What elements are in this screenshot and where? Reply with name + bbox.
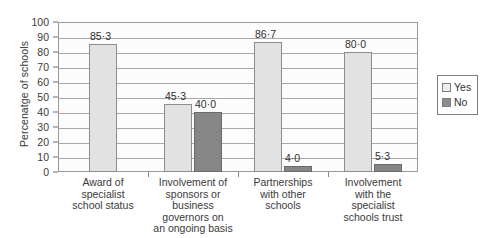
- x-axis-label-line: Involvement of: [142, 177, 244, 189]
- x-axis-label-line: schools: [232, 200, 334, 212]
- y-axis-tick-90: 90: [37, 32, 49, 43]
- bars-layer: 85·345·340·086·74·080·05·3: [58, 22, 418, 172]
- bar-yes-1[interactable]: [89, 44, 117, 172]
- y-axis-tick-40: 40: [37, 107, 49, 118]
- y-axis-tick-50: 50: [37, 92, 49, 103]
- bar-value-label: 80·0: [345, 39, 366, 50]
- x-axis-label-line: Partnerships: [232, 177, 334, 189]
- x-axis-label-line: schools trust: [322, 212, 424, 224]
- x-axis-label-line: an ongoing basis: [142, 223, 244, 235]
- y-axis-tick-100: 100: [31, 17, 49, 28]
- y-axis-tick-30: 30: [37, 122, 49, 133]
- bar-value-label: 40·0: [195, 99, 216, 110]
- x-axis-label-3: Partnershipswith otherschools: [232, 177, 334, 212]
- y-axis-tick-80: 80: [37, 47, 49, 58]
- x-axis-label-line: Involvement: [322, 177, 424, 189]
- legend: YesNo: [437, 75, 478, 115]
- bar-no-2[interactable]: [194, 112, 222, 172]
- bar-no-4[interactable]: [374, 164, 402, 172]
- y-axis-tick-20: 20: [37, 137, 49, 148]
- y-axis-tick-70: 70: [37, 62, 49, 73]
- legend-swatch-icon: [442, 98, 451, 107]
- bar-value-label: 5·3: [375, 151, 390, 162]
- y-axis-tick-10: 10: [37, 152, 49, 163]
- x-axis-category-labels: Award ofspecialistschool statusInvolveme…: [58, 177, 418, 235]
- y-axis-tick-60: 60: [37, 77, 49, 88]
- x-axis-label-line: Award of: [52, 177, 154, 189]
- x-axis-label-4: Involvementwith thespecialistschools tru…: [322, 177, 424, 223]
- bar-value-label: 85·3: [90, 31, 111, 42]
- y-axis-tick-0: 0: [43, 167, 49, 178]
- legend-item-no[interactable]: No: [442, 95, 474, 110]
- x-axis-label-line: school status: [52, 200, 154, 212]
- x-axis-label-1: Award ofspecialistschool status: [52, 177, 154, 212]
- y-axis-tick-labels: 1009080706050403020100: [0, 0, 58, 172]
- legend-swatch-icon: [442, 83, 451, 92]
- bar-value-label: 45·3: [165, 91, 186, 102]
- bar-yes-2[interactable]: [164, 104, 192, 172]
- legend-item-yes[interactable]: Yes: [442, 80, 474, 95]
- x-axis-label-2: Involvement ofsponsors orbusinessgoverno…: [142, 177, 244, 235]
- bar-yes-3[interactable]: [254, 42, 282, 172]
- bar-yes-4[interactable]: [344, 52, 372, 172]
- bar-value-label: 4·0: [285, 153, 300, 164]
- legend-item-label: No: [454, 97, 467, 108]
- legend-item-label: Yes: [454, 82, 471, 93]
- bar-value-label: 86·7: [255, 29, 276, 40]
- bar-chart-figure: Percenatge of schools 100908070605040302…: [0, 0, 496, 238]
